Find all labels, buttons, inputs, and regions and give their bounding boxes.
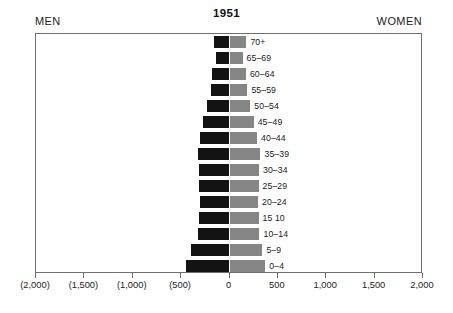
bar-women xyxy=(230,148,261,160)
pyramid-row: 0–4 xyxy=(36,260,421,272)
age-group-label: 40–44 xyxy=(261,133,286,143)
bar-men xyxy=(198,228,229,240)
bar-women xyxy=(230,164,260,176)
pyramid-row: 15 10 xyxy=(36,212,421,224)
x-tick-label: 1,500 xyxy=(362,280,385,290)
pyramid-row: 20–24 xyxy=(36,196,421,208)
bar-men xyxy=(198,148,230,160)
age-group-label: 10–14 xyxy=(263,229,288,239)
x-tick-mark xyxy=(325,273,326,278)
bar-women xyxy=(230,212,259,224)
bar-women xyxy=(230,228,260,240)
x-tick-mark xyxy=(422,273,423,278)
chart-title: 1951 xyxy=(0,7,453,19)
x-tick-mark xyxy=(35,273,36,278)
x-tick-label: 2,000 xyxy=(410,280,433,290)
bar-men xyxy=(200,132,229,144)
bar-women xyxy=(230,244,263,256)
x-tick-label: 500 xyxy=(269,280,285,290)
age-group-label: 5–9 xyxy=(266,245,281,255)
population-pyramid-chart: MEN WOMEN 1951 70+65–6960–6455–5950–5445… xyxy=(0,0,453,313)
age-group-label: 45–49 xyxy=(258,117,283,127)
x-tick-mark xyxy=(229,273,230,278)
bar-women xyxy=(230,260,266,272)
pyramid-row: 60–64 xyxy=(36,68,421,80)
bar-men xyxy=(199,212,230,224)
age-group-label: 35–39 xyxy=(264,149,289,159)
x-tick-mark xyxy=(180,273,181,278)
age-group-label: 15 10 xyxy=(263,213,285,223)
bar-women xyxy=(230,132,258,144)
age-group-label: 25–29 xyxy=(263,181,288,191)
age-group-label: 0–4 xyxy=(269,261,284,271)
x-tick-mark xyxy=(277,273,278,278)
bar-women xyxy=(230,180,259,192)
age-group-label: 60–64 xyxy=(250,69,275,79)
pyramid-row: 40–44 xyxy=(36,132,421,144)
x-tick-label: (1,000) xyxy=(117,280,146,290)
bar-women xyxy=(230,100,251,112)
x-tick-label: (2,000) xyxy=(20,280,49,290)
bar-men xyxy=(214,36,230,48)
pyramid-row: 70+ xyxy=(36,36,421,48)
pyramid-row: 10–14 xyxy=(36,228,421,240)
pyramid-row: 45–49 xyxy=(36,116,421,128)
bar-men xyxy=(199,180,229,192)
x-tick-mark xyxy=(83,273,84,278)
age-group-label: 50–54 xyxy=(254,101,279,111)
bar-women xyxy=(230,116,254,128)
bar-men xyxy=(216,52,230,64)
pyramid-row: 30–34 xyxy=(36,164,421,176)
pyramid-row: 5–9 xyxy=(36,244,421,256)
pyramid-row: 65–69 xyxy=(36,52,421,64)
pyramid-row: 25–29 xyxy=(36,180,421,192)
bar-men xyxy=(203,116,229,128)
plot-area: 70+65–6960–6455–5950–5445–4940–4435–3930… xyxy=(35,33,422,273)
age-group-label: 20–24 xyxy=(262,197,287,207)
bar-women xyxy=(230,84,248,96)
bar-men xyxy=(186,260,229,272)
pyramid-row: 35–39 xyxy=(36,148,421,160)
bars-layer: 70+65–6960–6455–5950–5445–4940–4435–3930… xyxy=(36,34,421,272)
age-group-label: 70+ xyxy=(250,37,265,47)
bar-men xyxy=(191,244,229,256)
bar-men xyxy=(207,100,229,112)
x-tick-label: 0 xyxy=(226,280,231,290)
bar-women xyxy=(230,68,246,80)
x-axis: (2,000)(1,500)(1,000)(500)05001,0001,500… xyxy=(35,273,422,313)
bar-women xyxy=(230,36,247,48)
bar-men xyxy=(200,196,230,208)
x-tick-label: 1,000 xyxy=(314,280,337,290)
x-tick-mark xyxy=(374,273,375,278)
age-group-label: 30–34 xyxy=(263,165,288,175)
age-group-label: 65–69 xyxy=(247,53,272,63)
bar-men xyxy=(199,164,230,176)
bar-men xyxy=(211,84,230,96)
x-tick-label: (500) xyxy=(169,280,191,290)
x-tick-label: (1,500) xyxy=(69,280,98,290)
pyramid-row: 55–59 xyxy=(36,84,421,96)
age-group-label: 55–59 xyxy=(251,85,276,95)
pyramid-row: 50–54 xyxy=(36,100,421,112)
bar-men xyxy=(212,68,229,80)
bar-women xyxy=(230,52,243,64)
bar-women xyxy=(230,196,259,208)
x-tick-mark xyxy=(132,273,133,278)
